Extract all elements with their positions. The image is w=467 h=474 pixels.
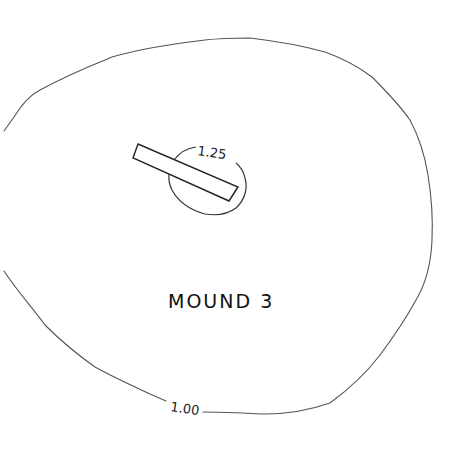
mound-title: MOUND 3	[168, 290, 274, 312]
mound-map: 1.25 1.00 MOUND 3	[0, 0, 467, 474]
contour-line-outer-lower-left	[4, 271, 166, 401]
contour-line-outer	[4, 38, 432, 414]
contour-label-1-00: 1.00	[170, 399, 201, 418]
contour-label-1-25: 1.25	[197, 143, 228, 162]
contour-map-svg: 1.25 1.00 MOUND 3	[0, 0, 467, 474]
